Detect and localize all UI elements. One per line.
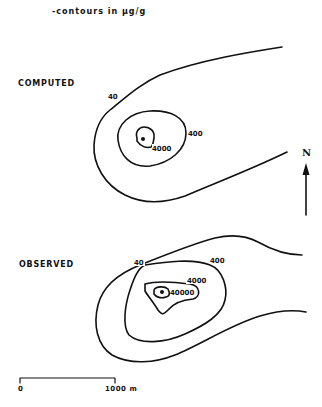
observed-label-40000: 40000 [170, 289, 194, 297]
north-arrow-icon [303, 163, 310, 175]
computed-contour-400 [118, 111, 186, 166]
computed-source-point [141, 137, 145, 141]
observed-label-4000: 4000 [187, 277, 207, 285]
observed-contour-4000 [145, 282, 199, 314]
computed-label-4000: 4000 [152, 145, 172, 153]
observed-contour-400 [125, 261, 226, 342]
scale-bar [20, 378, 115, 383]
computed-label-400: 400 [188, 130, 203, 138]
observed-source-point [160, 290, 164, 294]
contour-map: 40 400 4000 40 400 4000 40000 [0, 0, 322, 407]
computed-label-40: 40 [108, 93, 118, 101]
observed-label-40: 40 [134, 259, 144, 267]
observed-label-400: 400 [210, 257, 225, 265]
